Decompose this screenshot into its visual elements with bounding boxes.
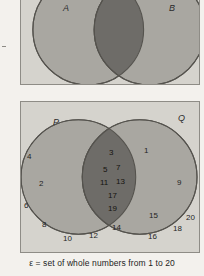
set-p-label: P — [53, 118, 59, 127]
venn-number: 1 — [144, 147, 148, 155]
venn-number: 19 — [108, 205, 117, 213]
venn-number: 11 — [100, 179, 108, 187]
venn-number: 17 — [108, 192, 117, 200]
venn-number: 5 — [103, 166, 107, 174]
venn-number: 14 — [112, 224, 121, 232]
universal-set-caption: ε = set of whole numbers from 1 to 20 — [0, 258, 204, 268]
venn-number: 7 — [116, 164, 120, 172]
set-a-label: A — [63, 4, 69, 13]
venn-number: 9 — [177, 179, 181, 187]
venn-number: 6 — [24, 202, 28, 210]
venn-number: 15 — [149, 212, 158, 220]
venn-diagram-pq: P Q 4 2 6 8 10 12 14 3 5 7 11 13 17 19 1… — [20, 101, 200, 253]
venn-number: 13 — [116, 178, 125, 186]
venn-number: 10 — [63, 235, 72, 243]
venn-number: 20 — [186, 214, 195, 222]
venn-number: 18 — [173, 225, 182, 233]
venn-number: 16 — [148, 233, 157, 241]
figure-page: A B P Q 4 2 6 8 10 — [0, 0, 204, 276]
margin-tick — [2, 46, 6, 47]
venn-diagram-ab: A B — [20, 0, 200, 85]
set-b-label: B — [169, 4, 175, 13]
venn-number: 2 — [39, 180, 43, 188]
venn-number: 12 — [89, 232, 98, 240]
venn-number: 4 — [27, 153, 31, 161]
venn-number: 8 — [42, 221, 46, 229]
set-q-label: Q — [178, 114, 185, 123]
venn-number: 3 — [109, 149, 113, 157]
